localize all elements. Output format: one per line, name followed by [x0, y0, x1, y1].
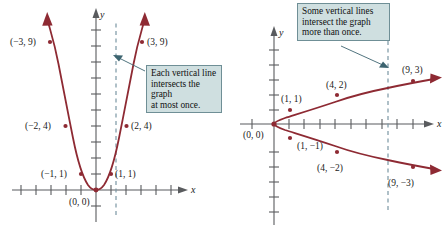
right-y-axis-label: y [278, 27, 284, 38]
right-x-axis [240, 119, 434, 129]
left-panel-group: (−3, 9) (3, 9) (−2, 4) (2, 4) (−1, 1) (1… [10, 8, 196, 222]
point-1-neg1-right [288, 136, 292, 140]
label-9-neg3-right: (9, −3) [388, 178, 414, 189]
label-0-0: (0, 0) [69, 197, 90, 208]
right-curve-arrow-lower [430, 165, 442, 176]
point-0-0 [94, 188, 99, 193]
callout-each-vertical-line: Each vertical line intersects the graph … [146, 65, 222, 113]
right-x-axis-label: x [436, 118, 442, 129]
label-1-neg1-right: (1, −1) [297, 141, 323, 152]
label-4-neg2-right: (4, −2) [317, 163, 343, 174]
figure-container: (−3, 9) (3, 9) (−2, 4) (2, 4) (−1, 1) (1… [0, 0, 444, 229]
point-4-neg2-right [335, 150, 339, 154]
left-curve-arrow-left [42, 12, 52, 26]
label-9-3-right: (9, 3) [402, 65, 423, 76]
label-2-4: (2, 4) [131, 121, 152, 132]
left-y-axis-label: y [99, 9, 105, 20]
right-panel-group: (1, 1) (4, 2) (9, 3) (0, 0) (1, −1) (4, … [240, 26, 442, 225]
point-1-1-right [288, 108, 292, 112]
left-curve-arrow-right [140, 12, 150, 26]
label-3-9: (3, 9) [147, 37, 168, 48]
point-9-neg3-right [411, 165, 415, 169]
callout-some-vertical-lines: Some vertical lines intersect the graph … [297, 3, 390, 41]
point-1-1 [109, 172, 113, 176]
label-neg3-9: (−3, 9) [10, 37, 36, 48]
point-9-3-right [411, 79, 415, 83]
right-callout-leader [341, 46, 389, 68]
label-1-1-right: (1, 1) [281, 94, 302, 105]
right-curve-arrow-upper [430, 74, 442, 84]
point-0-0-right [271, 121, 276, 126]
point-neg2-4 [63, 124, 67, 128]
label-neg1-1: (−1, 1) [41, 169, 67, 180]
point-3-9 [140, 40, 144, 44]
label-1-1: (1, 1) [115, 169, 136, 180]
point-2-4 [124, 124, 128, 128]
label-4-2-right: (4, 2) [326, 80, 347, 91]
left-callout-leader [113, 55, 145, 71]
point-neg3-9 [48, 40, 52, 44]
label-neg2-4: (−2, 4) [25, 121, 51, 132]
label-0-0-right: (0, 0) [243, 130, 264, 141]
point-4-2-right [335, 93, 339, 97]
left-x-axis-label: x [190, 184, 196, 195]
point-neg1-1 [79, 172, 83, 176]
left-x-axis [12, 185, 188, 195]
